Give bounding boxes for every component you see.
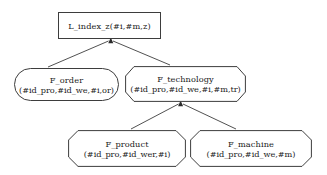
edge-product-to-technology — [131, 104, 179, 129]
edge-machine-to-technology — [183, 104, 236, 129]
node-f-order-title: F_order — [50, 75, 83, 85]
edge-technology-to-index — [113, 41, 170, 65]
node-f-product[interactable]: F_product (#id_pro,#id_wer,#i) — [68, 130, 186, 167]
node-f-machine-attributes: (#id_pro,#id_we,#m) — [207, 149, 296, 159]
node-f-order[interactable]: F_order (#id_pro,#id_we,#i,or) — [14, 68, 119, 101]
node-f-product-attributes: (#id_pro,#id_wer,#i) — [84, 149, 171, 159]
node-f-technology[interactable]: F_technology (#id_pro,#id_we,#i,#m,tr) — [125, 66, 246, 102]
node-l-index-z-label: L_index_z(#i,#m,z) — [68, 21, 150, 31]
edge-order-to-index — [48, 41, 109, 67]
node-f-product-title: F_product — [105, 139, 148, 149]
diagram-canvas: L_index_z(#i,#m,z) F_order (#id_pro,#id_… — [0, 0, 327, 175]
node-f-machine[interactable]: F_machine (#id_pro,#id_we,#m) — [190, 130, 312, 167]
node-f-machine-title: F_machine — [228, 139, 274, 149]
node-f-technology-title: F_technology — [157, 74, 214, 84]
node-f-technology-attributes: (#id_pro,#id_we,#i,#m,tr) — [130, 84, 240, 94]
node-l-index-z[interactable]: L_index_z(#i,#m,z) — [58, 12, 161, 39]
node-f-order-attributes: (#id_pro,#id_we,#i,or) — [19, 85, 114, 95]
